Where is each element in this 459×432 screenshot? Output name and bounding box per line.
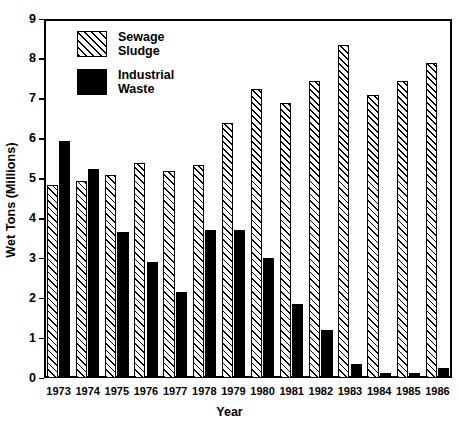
legend-swatch-sewage-sludge-icon [77, 31, 107, 57]
legend-item-industrial-waste: Industrial Waste [77, 69, 174, 96]
legend-label-sewage-sludge: Sewage Sludge [118, 31, 165, 58]
bar-chart: Wet Tons (Millions) 0123456789 197319741… [0, 0, 459, 432]
legend-item-sewage-sludge: Sewage Sludge [77, 31, 165, 58]
legend-swatch-industrial-waste-icon [77, 69, 107, 95]
chart-legend: Sewage Sludge Industrial Waste [0, 0, 459, 432]
legend-label-industrial-waste: Industrial Waste [118, 69, 174, 96]
